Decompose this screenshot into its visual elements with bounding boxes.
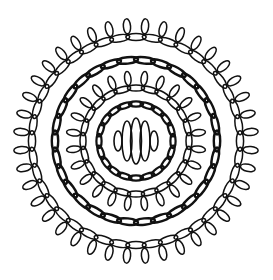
petal — [66, 129, 81, 137]
petal — [70, 159, 85, 170]
chain-link — [160, 155, 173, 170]
chain-link — [100, 112, 113, 127]
chain-link — [180, 71, 200, 90]
chain-link — [187, 48, 208, 66]
petal — [86, 239, 98, 256]
petal — [14, 128, 30, 136]
petal — [178, 96, 193, 110]
petal — [168, 183, 182, 198]
petal — [168, 84, 182, 99]
petal — [191, 145, 206, 153]
chain-link — [53, 58, 72, 77]
mandala-artwork — [0, 0, 273, 280]
petal — [140, 71, 148, 86]
chain-link — [65, 216, 86, 234]
chain-link — [28, 131, 35, 151]
chain-link — [165, 95, 181, 111]
petal — [243, 146, 259, 154]
chain-link — [200, 205, 219, 224]
petal — [30, 194, 47, 208]
chain-link — [90, 170, 106, 186]
petal — [86, 26, 98, 43]
petal — [106, 192, 117, 207]
chain-link — [166, 63, 187, 79]
petal — [189, 231, 203, 248]
petal — [189, 35, 203, 52]
petal — [54, 46, 69, 62]
petal — [191, 129, 206, 137]
chain-link — [236, 131, 243, 151]
petal — [69, 35, 83, 52]
chain-link — [43, 70, 61, 91]
chain-link — [180, 192, 200, 211]
chain-link — [62, 83, 80, 104]
petal — [41, 59, 57, 74]
petal — [240, 163, 256, 174]
petal — [21, 91, 38, 103]
petal — [91, 84, 105, 99]
petal — [141, 19, 149, 35]
petal — [16, 163, 32, 174]
petal — [69, 231, 83, 248]
chain-link — [90, 95, 106, 111]
petal — [203, 46, 218, 62]
petal — [123, 19, 131, 35]
petal — [54, 220, 69, 236]
center-motif — [114, 118, 158, 164]
chain-link — [85, 203, 106, 219]
outer-ring — [14, 19, 259, 264]
petal — [243, 128, 259, 136]
petal — [226, 194, 243, 208]
petal — [79, 96, 94, 110]
petal — [70, 111, 85, 122]
chain-link — [210, 113, 221, 135]
petal — [140, 196, 148, 211]
second-ring — [51, 56, 220, 226]
chain-link — [126, 241, 146, 248]
petal — [215, 59, 231, 74]
chain-link — [107, 165, 122, 178]
petal — [104, 245, 115, 261]
petal — [91, 183, 105, 198]
chain-link — [165, 170, 181, 186]
petal — [124, 71, 132, 86]
petal — [21, 179, 38, 191]
petal — [16, 109, 32, 120]
petal — [30, 74, 47, 88]
petal — [14, 146, 30, 154]
petal — [234, 91, 251, 103]
petal — [187, 111, 202, 122]
chain-link — [200, 58, 219, 77]
chain-link — [211, 70, 229, 91]
petal — [158, 21, 169, 37]
center-oval — [150, 131, 158, 151]
chain-link — [193, 178, 211, 199]
rings-layer — [14, 19, 259, 264]
petal — [158, 245, 169, 261]
chain-link — [187, 216, 208, 234]
petal — [123, 248, 131, 264]
chain-link — [72, 71, 92, 90]
chain-link — [150, 105, 165, 118]
third-ring — [66, 71, 206, 211]
chain-link — [65, 48, 86, 66]
chain-link — [72, 192, 92, 211]
inner-ring — [96, 101, 176, 181]
petal — [174, 239, 186, 256]
petal — [226, 74, 243, 88]
petal — [104, 21, 115, 37]
petal — [154, 192, 165, 207]
petal — [178, 173, 193, 187]
petal — [240, 109, 256, 120]
petal — [203, 220, 218, 236]
petal — [141, 248, 149, 264]
petal — [124, 196, 132, 211]
petal — [66, 145, 81, 153]
petal — [41, 208, 57, 223]
center-oval — [114, 131, 122, 151]
petal — [187, 159, 202, 170]
petal — [106, 75, 117, 90]
chain-link — [126, 33, 146, 40]
petal — [234, 179, 251, 191]
petal — [174, 26, 186, 43]
